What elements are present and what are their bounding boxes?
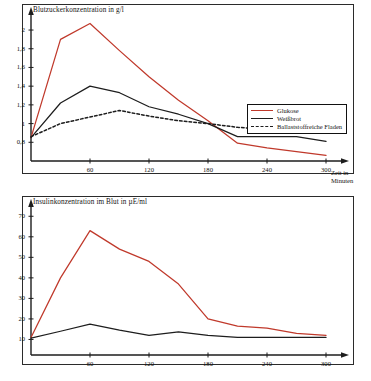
x-axis-tick-label: 180 — [196, 360, 220, 367]
legend-label: Ballaststoffreiche Fladen — [277, 123, 342, 131]
y-axis-tick-label: 1 — [7, 120, 25, 127]
x-axis-tick-label: 60 — [78, 166, 102, 173]
series-line — [31, 231, 326, 338]
figure-container: Blutzuckerkonzentration in g/l Glukose W… — [0, 0, 371, 381]
legend-label: Glukose — [277, 107, 299, 115]
y-axis-tick-label: 60 — [7, 233, 25, 240]
legend: Glukose Weißbrot Ballaststoffreiche Flad… — [247, 104, 347, 134]
y-axis-tick-label: 1,6 — [7, 63, 25, 70]
x-axis-tick-label: 300 — [314, 166, 338, 173]
legend-label: Weißbrot — [277, 115, 301, 123]
y-axis-tick-label: 1,2 — [7, 101, 25, 108]
x-axis-tick-label: 240 — [255, 166, 279, 173]
y-axis-tick-label: 10 — [7, 335, 25, 342]
x-axis-label-line2: Minuten — [331, 177, 353, 185]
y-axis-tick-label: 1,8 — [7, 45, 25, 52]
chart-blutzucker: Blutzuckerkonzentration in g/l Glukose W… — [0, 0, 371, 190]
x-axis-tick-label: 120 — [137, 360, 161, 367]
x-axis-tick-label: 180 — [196, 166, 220, 173]
legend-item: Ballaststoffreiche Fladen — [251, 123, 342, 131]
plot-area — [0, 190, 371, 380]
y-axis-tick-label: 30 — [7, 294, 25, 301]
y-axis-tick-label: 50 — [7, 253, 25, 260]
legend-item: Weißbrot — [251, 115, 342, 123]
y-axis-tick-label: 0,8 — [7, 138, 25, 145]
y-axis-tick-label: 20 — [7, 315, 25, 322]
series-line — [31, 23, 326, 155]
x-axis-tick-label: 300 — [314, 360, 338, 367]
y-axis-tick-label: 70 — [7, 212, 25, 219]
x-axis-tick-label: 60 — [78, 360, 102, 367]
y-axis-tick-label: 40 — [7, 274, 25, 281]
y-axis-tick-label: 2 — [7, 26, 25, 33]
x-axis-tick-label: 240 — [255, 360, 279, 367]
chart-insulin: Insulinkonzentration im Blut in µE/ml We… — [0, 190, 371, 381]
legend-item: Glukose — [251, 107, 342, 115]
y-axis-tick-label: 1,4 — [7, 82, 25, 89]
x-axis-tick-label: 120 — [137, 166, 161, 173]
plot-area — [0, 0, 371, 190]
